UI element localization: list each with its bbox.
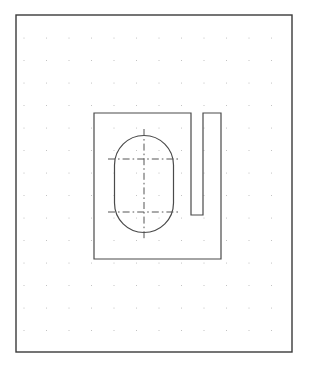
grid-dot — [46, 127, 47, 128]
grid-dot — [248, 60, 249, 61]
grid-dot — [136, 105, 137, 106]
grid-dot — [226, 240, 227, 241]
grid-dot — [158, 150, 159, 151]
grid-dot — [226, 150, 227, 151]
grid-dot — [136, 37, 137, 38]
grid-dot — [203, 82, 204, 83]
grid-dot — [113, 262, 114, 263]
grid-dot — [136, 285, 137, 286]
grid-dot — [203, 150, 204, 151]
grid-dot — [136, 60, 137, 61]
grid-dot — [46, 285, 47, 286]
grid-dot — [46, 60, 47, 61]
grid-dot — [68, 105, 69, 106]
grid-dot — [113, 240, 114, 241]
grid-dot — [203, 105, 204, 106]
grid-dot — [136, 262, 137, 263]
grid-dot — [113, 217, 114, 218]
grid-dot — [23, 60, 24, 61]
grid-dot — [68, 285, 69, 286]
grid-dot — [91, 82, 92, 83]
grid-dot — [226, 37, 227, 38]
grid-dot — [68, 37, 69, 38]
grid-dot — [203, 172, 204, 173]
grid-dot — [248, 82, 249, 83]
grid-dot — [91, 60, 92, 61]
grid-dot — [271, 307, 272, 308]
grid-dot — [248, 217, 249, 218]
grid-dot — [226, 172, 227, 173]
grid-dot — [91, 172, 92, 173]
grid-dot — [158, 307, 159, 308]
grid-dot — [248, 330, 249, 331]
grid-dot — [23, 330, 24, 331]
grid-dot — [158, 330, 159, 331]
grid-dot — [203, 217, 204, 218]
grid-dot — [271, 82, 272, 83]
grid-dot — [271, 195, 272, 196]
grid-dot — [158, 195, 159, 196]
grid-dot — [226, 307, 227, 308]
grid-dot — [91, 127, 92, 128]
grid-dot — [248, 262, 249, 263]
grid-dot — [91, 262, 92, 263]
grid-dot — [91, 307, 92, 308]
grid-dot — [91, 105, 92, 106]
grid-dot — [226, 262, 227, 263]
grid-dot — [46, 240, 47, 241]
grid-dot — [181, 262, 182, 263]
grid-dot — [158, 172, 159, 173]
grid-dot — [203, 240, 204, 241]
grid-dot — [23, 127, 24, 128]
grid-dot — [23, 172, 24, 173]
grid-dot — [68, 307, 69, 308]
grid-dot — [113, 307, 114, 308]
grid-dot — [271, 105, 272, 106]
grid-dot — [158, 285, 159, 286]
grid-dot — [68, 217, 69, 218]
grid-dot — [68, 262, 69, 263]
grid-dot — [181, 217, 182, 218]
grid-dot — [226, 195, 227, 196]
sketch-canvas-root[interactable] — [0, 0, 310, 369]
grid-dot — [203, 195, 204, 196]
grid-dot — [23, 150, 24, 151]
grid-dot — [248, 307, 249, 308]
grid-dot — [91, 150, 92, 151]
grid-dot — [181, 37, 182, 38]
grid-dot — [271, 127, 272, 128]
grid-dot — [23, 262, 24, 263]
grid-dot — [46, 217, 47, 218]
grid-dot — [203, 307, 204, 308]
grid-dot — [181, 240, 182, 241]
grid-dot — [226, 60, 227, 61]
grid-dot — [271, 262, 272, 263]
cad-drawing-surface[interactable] — [0, 0, 310, 369]
grid-dot — [271, 285, 272, 286]
grid-dot — [271, 60, 272, 61]
grid-dot — [181, 150, 182, 151]
grid-dot — [203, 330, 204, 331]
grid-dot — [46, 150, 47, 151]
grid-dot — [248, 37, 249, 38]
grid-dot — [226, 127, 227, 128]
grid-dot — [248, 195, 249, 196]
grid-dot — [113, 285, 114, 286]
grid-dot — [136, 307, 137, 308]
grid-dot — [181, 330, 182, 331]
grid-dot — [271, 330, 272, 331]
grid-dot — [248, 240, 249, 241]
grid-dot — [158, 105, 159, 106]
grid-dot — [23, 240, 24, 241]
grid-dot — [226, 105, 227, 106]
grid-dot — [181, 307, 182, 308]
grid-dot — [271, 240, 272, 241]
grid-dot — [158, 60, 159, 61]
grid-dot — [113, 60, 114, 61]
grid-dot — [91, 285, 92, 286]
grid-dot — [23, 195, 24, 196]
grid-dot — [248, 285, 249, 286]
grid-dot — [136, 217, 137, 218]
grid-dot — [248, 105, 249, 106]
grid-dot — [23, 105, 24, 106]
